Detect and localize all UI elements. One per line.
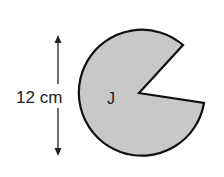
sector-shape-j: [79, 30, 204, 156]
arrowhead-up-icon: [55, 35, 62, 43]
dimension-label: 12 cm: [16, 88, 62, 107]
shape-label: J: [107, 90, 115, 107]
diagram-canvas: 12 cm J: [0, 0, 224, 177]
arrowhead-down-icon: [55, 148, 62, 156]
